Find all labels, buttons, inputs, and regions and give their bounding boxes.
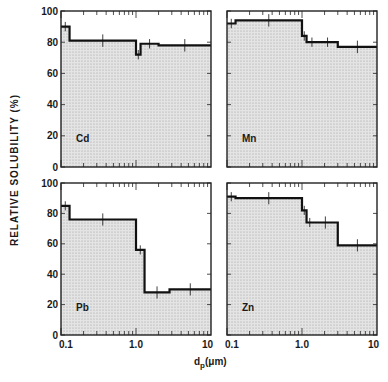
y-tick-label: 0 <box>52 330 58 341</box>
y-tick-label: 80 <box>47 208 59 219</box>
x-tick-label: 10 <box>202 339 214 350</box>
y-tick-label: 20 <box>47 130 59 141</box>
chart-grid: 020406080100CdMn0204060801000.11.010Pb0.… <box>0 0 388 382</box>
y-tick-label: 60 <box>47 238 59 249</box>
x-tick-label: 1.0 <box>129 339 143 350</box>
y-tick-label: 60 <box>47 68 59 79</box>
element-label: Cd <box>76 133 89 144</box>
y-tick-label: 40 <box>47 99 59 110</box>
x-tick-label: 0.1 <box>225 339 239 350</box>
y-tick-label: 100 <box>41 178 58 189</box>
panel-cd: 020406080100Cd <box>41 6 211 173</box>
y-tick-label: 20 <box>47 299 59 310</box>
area-fill <box>227 20 377 167</box>
element-label: Zn <box>242 302 254 313</box>
element-label: Mn <box>242 133 256 144</box>
panel-mn: Mn <box>227 11 377 167</box>
area-fill <box>227 197 377 335</box>
x-axis-label: dp(μm) <box>194 356 254 370</box>
panel-pb: 0204060801000.11.010Pb <box>41 178 213 351</box>
panel-zn: 0.11.010Zn <box>225 183 379 350</box>
y-tick-label: 100 <box>41 6 58 17</box>
element-label: Pb <box>76 302 89 313</box>
x-tick-label: 0.1 <box>59 339 73 350</box>
x-tick-label: 10 <box>368 339 380 350</box>
y-tick-label: 0 <box>52 162 58 173</box>
y-tick-label: 40 <box>47 269 59 280</box>
y-tick-label: 80 <box>47 37 59 48</box>
x-tick-label: 1.0 <box>295 339 309 350</box>
